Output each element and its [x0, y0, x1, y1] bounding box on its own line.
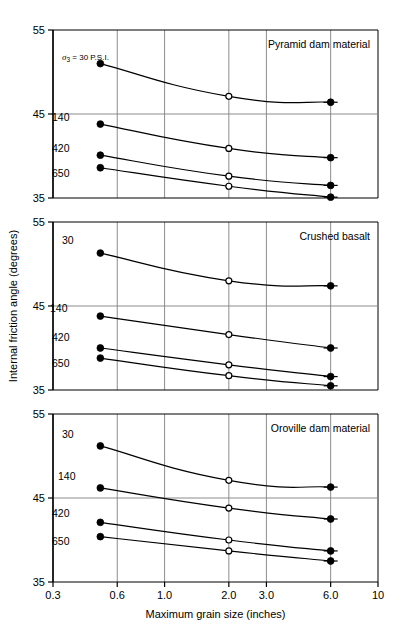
series-label-crushed-140: 140 — [50, 302, 68, 314]
series-label-pyramid-140: 140 — [52, 111, 70, 123]
series-label-crushed-650: 650 — [52, 357, 70, 369]
series-curve-650 — [100, 537, 330, 561]
x-tick-label-10: 10 — [372, 589, 384, 601]
x-tick-label-6.0: 6.0 — [323, 589, 338, 601]
panel-title-1: Crushed basalt — [299, 230, 370, 242]
y-tick-label-55: 55 — [33, 24, 45, 36]
data-point-filled-650[interactable] — [327, 558, 334, 565]
series-curve-420 — [100, 348, 330, 377]
series-label-pyramid-650: 650 — [52, 167, 70, 179]
x-tick-label-3.0: 3.0 — [259, 589, 274, 601]
x-tick-label-2.0: 2.0 — [221, 589, 236, 601]
y-tick-label-45: 45 — [33, 300, 45, 312]
series-label-oroville-420: 420 — [52, 507, 70, 519]
series-label-oroville-30: 30 — [62, 428, 74, 440]
data-point-open-140[interactable] — [226, 145, 232, 151]
data-point-filled-420[interactable] — [97, 345, 104, 352]
data-point-open-420[interactable] — [226, 173, 232, 179]
data-point-open-140[interactable] — [226, 332, 232, 338]
y-tick-label-35: 35 — [33, 576, 45, 588]
data-point-open-30[interactable] — [226, 93, 232, 99]
data-point-filled-140[interactable] — [327, 516, 334, 523]
x-tick-label-0.6: 0.6 — [110, 589, 125, 601]
data-point-filled-420[interactable] — [97, 519, 104, 526]
x-axis-title: Maximum grain size (inches) — [146, 608, 286, 620]
series-curve-140 — [100, 316, 330, 348]
series-curve-30 — [100, 253, 330, 286]
data-point-open-650[interactable] — [226, 183, 232, 189]
data-point-filled-30[interactable] — [327, 484, 334, 491]
series-curve-30 — [100, 446, 330, 487]
data-point-filled-420[interactable] — [327, 548, 334, 555]
data-point-filled-650[interactable] — [327, 194, 334, 201]
series-curve-420 — [100, 155, 330, 185]
series-label-crushed-420: 420 — [52, 331, 70, 343]
data-point-filled-420[interactable] — [327, 182, 334, 189]
data-point-filled-650[interactable] — [97, 164, 104, 171]
x-tick-label-0.3: 0.3 — [45, 589, 60, 601]
y-tick-label-45: 45 — [33, 492, 45, 504]
data-point-open-650[interactable] — [226, 548, 232, 554]
data-point-filled-140[interactable] — [97, 121, 104, 128]
data-point-filled-140[interactable] — [97, 313, 104, 320]
series-label-crushed-30: 30 — [62, 234, 74, 246]
y-tick-label-35: 35 — [33, 192, 45, 204]
data-point-filled-650[interactable] — [97, 533, 104, 540]
y-tick-label-45: 45 — [33, 108, 45, 120]
panel-title-0: Pyramid dam material — [268, 38, 370, 50]
series-curve-650 — [100, 358, 330, 386]
data-point-filled-30[interactable] — [327, 99, 334, 106]
data-point-filled-30[interactable] — [97, 250, 104, 257]
data-point-open-30[interactable] — [226, 278, 232, 284]
y-tick-label-55: 55 — [33, 216, 45, 228]
x-tick-label-1.0: 1.0 — [157, 589, 172, 601]
data-point-open-140[interactable] — [226, 505, 232, 511]
series-label-oroville-650: 650 — [52, 535, 70, 547]
series-label-sigma-30: σ3 = 30 P.S.I. — [62, 52, 109, 63]
data-point-open-420[interactable] — [226, 362, 232, 368]
series-label-pyramid-420: 420 — [52, 142, 70, 154]
series-curve-650 — [100, 168, 330, 197]
panel-title-2: Oroville dam material — [271, 422, 370, 434]
data-point-filled-30[interactable] — [97, 443, 104, 450]
data-point-open-30[interactable] — [226, 477, 232, 483]
data-point-filled-140[interactable] — [327, 154, 334, 161]
data-point-filled-650[interactable] — [327, 382, 334, 389]
data-point-filled-420[interactable] — [97, 152, 104, 159]
y-axis-title: Internal friction angle (degrees) — [7, 230, 19, 382]
series-curve-30 — [100, 64, 330, 103]
data-point-filled-140[interactable] — [97, 485, 104, 492]
figure-container: 354555Pyramid dam materialσ3 = 30 P.S.I.… — [0, 0, 401, 634]
series-curve-140 — [100, 488, 330, 519]
data-point-filled-420[interactable] — [327, 373, 334, 380]
data-point-filled-30[interactable] — [327, 282, 334, 289]
multi-panel-friction-angle-chart: 354555Pyramid dam materialσ3 = 30 P.S.I.… — [0, 0, 401, 634]
y-tick-label-55: 55 — [33, 408, 45, 420]
series-label-oroville-140: 140 — [58, 470, 76, 482]
series-curve-140 — [100, 124, 330, 158]
series-curve-420 — [100, 522, 330, 551]
data-point-filled-140[interactable] — [327, 345, 334, 352]
data-point-filled-650[interactable] — [97, 355, 104, 362]
y-tick-label-35: 35 — [33, 384, 45, 396]
data-point-open-650[interactable] — [226, 373, 232, 379]
data-point-open-420[interactable] — [226, 537, 232, 543]
